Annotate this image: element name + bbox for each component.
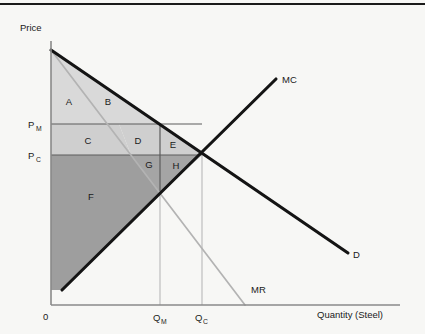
region-label-e: E	[170, 139, 176, 150]
region-label-d: D	[135, 135, 142, 146]
curve-label-mc: MC	[282, 74, 297, 85]
curve-label-mr: MR	[251, 284, 266, 295]
origin-label: 0	[43, 311, 48, 322]
y-axis-label: Price	[20, 22, 42, 33]
price-tick-pm-sub: M	[36, 125, 42, 132]
region-label-f: F	[88, 191, 94, 202]
x-axis-label: Quantity (Steel)	[317, 309, 383, 320]
region-label-a: A	[66, 96, 73, 107]
figure-canvas: A B C D E F G H Price Quantity (Steel) 0…	[0, 0, 425, 334]
quantity-tick-qm-sub: M	[161, 318, 167, 325]
quantity-tick-qc-base: Q	[195, 312, 202, 323]
price-tick-pc-sub: C	[36, 156, 41, 163]
quantity-tick-qc-sub: C	[203, 318, 208, 325]
curve-label-d: D	[353, 249, 360, 260]
region-label-b: B	[105, 96, 111, 107]
quantity-tick-qm-base: Q	[153, 312, 160, 323]
region-label-c: C	[85, 135, 92, 146]
price-tick-pm-base: P	[28, 119, 34, 130]
monopoly-welfare-diagram: A B C D E F G H Price Quantity (Steel) 0…	[0, 0, 425, 334]
region-label-h: H	[173, 160, 180, 171]
region-label-g: G	[145, 159, 152, 170]
price-tick-pc-base: P	[28, 150, 34, 161]
